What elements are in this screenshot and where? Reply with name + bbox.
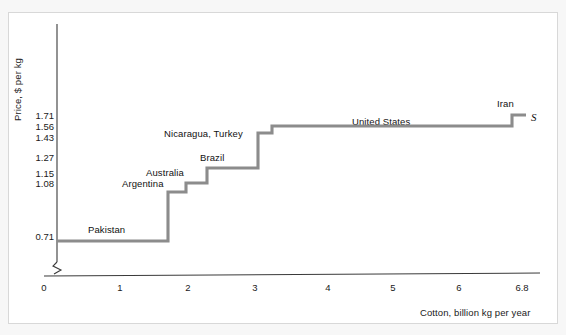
chart-plot-area — [0, 0, 566, 335]
figure-page: Price, $ per kg Cotton, billion kg per y… — [0, 0, 566, 335]
supply-curve-step-line — [57, 115, 526, 241]
y-axis-break-icon — [53, 262, 61, 274]
x-axis-line — [44, 273, 540, 276]
